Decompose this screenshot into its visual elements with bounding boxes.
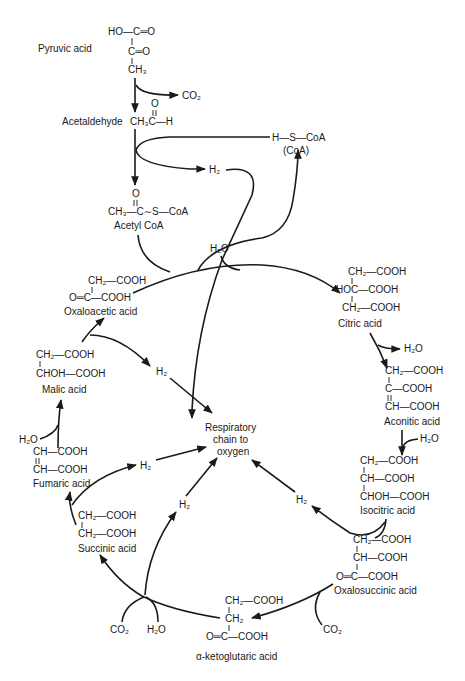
isocitric-label: Isocitric acid	[360, 505, 415, 516]
arrow-h2-release-malic	[90, 335, 150, 366]
aconitic-label: Aconitic acid	[384, 416, 440, 427]
arrow-succinic-to-fumaric	[70, 492, 76, 525]
isocitric-line-2: CH—COOH	[360, 473, 414, 484]
h2-label-malic: H₂	[156, 366, 167, 377]
oxalosuccinic-line-2: CH—COOH	[353, 552, 407, 563]
h2o-label-fumaric: H₂O	[19, 434, 38, 445]
malic-line-1: CH₂—COOH	[36, 349, 94, 360]
ketoglutaric-line-3: O═C—COOH	[206, 631, 268, 642]
succinic-line-2: CH₂—COOH	[78, 528, 136, 539]
arrow-h2-release-ketoglutaric	[145, 512, 176, 595]
succinic-label: Succinic acid	[78, 543, 136, 554]
co2-label-1: CO₂	[182, 90, 201, 101]
h2o-label-isocitric: H₂O	[420, 433, 439, 444]
acetaldehyde-formula: CH₃C—H	[130, 116, 173, 127]
oxalosuccinic-label: Oxalosuccinic acid	[334, 585, 417, 596]
ketoglutaric-label: α-ketoglutaric acid	[196, 651, 277, 662]
respiratory-chain-line-1: Respiratory	[205, 422, 256, 433]
coa-label: (CoA)	[283, 145, 309, 156]
oxaloacetic-line-2: O═C—COOH	[69, 292, 131, 303]
ketoglutaric-line-2: CH₂	[225, 613, 243, 624]
acetaldehyde-label: Acetaldehyde	[62, 116, 123, 127]
arrow-h2o-into-ketoglutaric	[146, 597, 158, 622]
succinic-acid: CH₂—COOH CH₂—COOH Succinic acid	[78, 510, 136, 554]
citric-line-2: HOC—COOH	[336, 284, 398, 295]
respiratory-chain-line-2: chain to	[213, 434, 248, 445]
fumaric-label: Fumaric acid	[33, 478, 90, 489]
pyruvic-formula-line-3: CH₃	[128, 64, 147, 75]
arrow-h2-isocitric-to-chain	[252, 460, 295, 492]
aconitic-acid: CH₂—COOH C—COOH CH—COOH Aconitic acid	[384, 365, 443, 427]
fumaric-line-1: CH—COOH	[33, 446, 87, 457]
citric-acid: CH₂—COOH HOC—COOH CH₂—COOH Citric acid	[336, 266, 406, 329]
arrow-co2-release-oxalosuccinic	[315, 592, 322, 625]
arrow-acetylcoa-into-cycle	[138, 235, 170, 272]
arrow-citric-to-aconitic	[370, 333, 387, 368]
citric-line-3: CH₂—COOH	[342, 302, 400, 313]
oxaloacetic-line-1: CH₂—COOH	[88, 275, 146, 286]
h2-label-ketoglutaric: H₂	[179, 499, 190, 510]
pyruvic-formula-line-2: C═O	[128, 46, 150, 57]
acetylcoa-carbonyl-o: O	[132, 188, 140, 199]
respiratory-chain-line-3: oxygen	[217, 446, 249, 457]
oxalosuccinic-line-1: CH₂—COOH	[353, 534, 411, 545]
isocitric-acid: CH₂—COOH CH—COOH CHOH—COOH Isocitric aci…	[360, 455, 429, 516]
arrow-co2-release-ketoglutaric	[122, 597, 144, 622]
malic-line-2: CHOH—COOH	[36, 368, 105, 379]
arrow-h2o-into-citric	[221, 256, 240, 270]
arrow-h2-succinic-to-chain	[156, 447, 206, 460]
arrow-h2-ketoglutaric-to-chain	[186, 458, 217, 496]
arrow-h2o-release-aconitic	[378, 345, 400, 349]
malic-acid: CH₂—COOH CHOH—COOH Malic acid	[36, 349, 105, 395]
arrow-h2o-into-malic	[40, 425, 58, 439]
pyruvic-formula-line-1: HO—C═O	[108, 26, 155, 37]
oxaloacetic-label: Oxaloacetic acid	[64, 306, 137, 317]
arrow-malic-to-oxaloacetic	[82, 318, 104, 342]
h2o-label-ketoglutaric: H₂O	[147, 624, 166, 635]
arrow-h2-to-respiratory-chain-top	[192, 169, 254, 418]
citric-line-1: CH₂—COOH	[348, 266, 406, 277]
respiratory-chain: Respiratory chain to oxygen	[205, 422, 256, 457]
isocitric-line-1: CH₂—COOH	[360, 455, 418, 466]
acetaldehyde: Acetaldehyde O CH₃C—H	[62, 98, 173, 127]
aconitic-line-1: CH₂—COOH	[385, 365, 443, 376]
arrow-co2-release-1	[136, 85, 178, 95]
acetyl-coa: O CH₃—C∼S—CoA Acetyl CoA	[108, 188, 189, 231]
isocitric-line-3: CHOH—COOH	[360, 491, 429, 502]
aconitic-line-3: CH—COOH	[385, 401, 439, 412]
krebs-cycle-diagram: Pyruvic acid HO—C═O C═O CH₃ CO₂ Acetalde…	[0, 0, 465, 681]
ketoglutaric-line-1: CH₂—COOH	[225, 595, 283, 606]
oxaloacetic-acid: CH₂—COOH O═C—COOH Oxaloacetic acid	[64, 275, 146, 317]
oxalosuccinic-acid: CH₂—COOH CH—COOH O═C—COOH Oxalosuccinic …	[334, 534, 417, 596]
citric-label: Citric acid	[338, 318, 382, 329]
pyruvic-acid: Pyruvic acid HO—C═O C═O CH₃	[38, 26, 155, 75]
arrow-fumaric-to-malic	[58, 400, 61, 448]
aconitic-line-2: C—COOH	[385, 383, 432, 394]
ketoglutaric-acid: CH₂—COOH CH₂ O═C—COOH α-ketoglutaric aci…	[196, 595, 283, 662]
h2o-label-citric: H₂O	[210, 243, 229, 254]
pyruvic-acid-label: Pyruvic acid	[38, 43, 92, 54]
coenzyme-a: H—S—CoA (CoA)	[272, 132, 326, 156]
succinic-line-1: CH₂—COOH	[78, 510, 136, 521]
arrow-coa-and-h2	[136, 137, 270, 169]
co2-label-oxalosuccinic: CO₂	[323, 624, 342, 635]
arrow-ketoglutaric-to-succinic	[100, 555, 220, 618]
malic-label: Malic acid	[42, 384, 86, 395]
h2o-label-aconitic: H₂O	[404, 343, 423, 354]
co2-label-ketoglutaric: CO₂	[110, 624, 129, 635]
acetylcoa-label: Acetyl CoA	[114, 220, 164, 231]
arrow-h2-malic-to-chain	[170, 378, 212, 413]
coa-formula: H—S—CoA	[272, 132, 326, 143]
fumaric-acid: CH—COOH CH—COOH Fumaric acid	[33, 446, 90, 489]
h2-label-isocitric: H₂	[296, 494, 307, 505]
h2-label-top: H₂	[209, 164, 220, 175]
arrow-h2o-into-isocitric	[403, 439, 418, 448]
h2-label-succinic: H₂	[140, 460, 151, 471]
acetylcoa-formula: CH₃—C∼S—CoA	[108, 206, 189, 217]
fumaric-line-2: CH—COOH	[33, 464, 87, 475]
oxalosuccinic-line-3: O═C—COOH	[336, 571, 398, 582]
acetaldehyde-carbonyl-o: O	[151, 98, 159, 109]
